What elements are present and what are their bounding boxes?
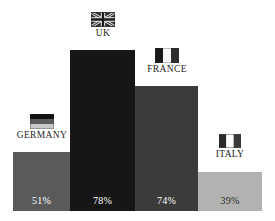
flag-uk-icon	[91, 12, 115, 27]
bar-value-france: 74%	[135, 195, 198, 206]
bar-label-uk: UK	[72, 29, 134, 39]
bar-header-france: FRANCE	[128, 48, 206, 75]
bar-france: 74%	[135, 86, 198, 211]
bar-value-uk: 78%	[70, 195, 135, 206]
bar-chart: 51% 78% 74% 39% GERMANY	[0, 0, 275, 221]
flag-italy-icon	[219, 134, 241, 148]
bar-value-germany: 51%	[13, 195, 70, 206]
bar-header-italy: ITALY	[198, 134, 262, 160]
bar-italy: 39%	[198, 172, 262, 211]
bar-label-italy: ITALY	[198, 150, 262, 160]
bar-header-germany: GERMANY	[3, 114, 81, 141]
flag-france-icon	[155, 48, 179, 63]
bar-germany: 51%	[13, 152, 70, 211]
bar-label-germany: GERMANY	[3, 131, 81, 141]
flag-germany-icon	[30, 114, 54, 129]
bar-header-uk: UK	[72, 12, 134, 39]
bar-value-italy: 39%	[198, 195, 262, 206]
bar-label-france: FRANCE	[128, 65, 206, 75]
